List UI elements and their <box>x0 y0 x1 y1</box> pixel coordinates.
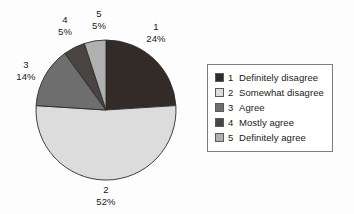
pie-slice-2 <box>36 106 176 180</box>
legend-swatch-icon-2 <box>215 88 224 97</box>
slice-label-3-value: 14% <box>8 71 44 83</box>
slice-label-1-value: 24% <box>136 33 176 45</box>
slice-label-2-value: 52% <box>86 196 126 208</box>
legend-key-1: 1 <box>228 72 239 83</box>
legend-label-1: Definitely disagree <box>239 72 318 83</box>
slice-label-1: 1 24% <box>136 21 176 44</box>
legend-swatch-icon-4 <box>215 118 224 127</box>
pie-chart-figure: 1 24% 2 52% 3 14% 4 5% 5 5% 1 Definitely… <box>0 0 354 214</box>
slice-label-5: 5 5% <box>84 8 114 31</box>
slice-label-3: 3 14% <box>8 59 44 82</box>
slice-label-5-key: 5 <box>84 8 114 20</box>
pie-slice-1 <box>106 40 176 110</box>
legend-item-5: 5 Definitely agree <box>215 130 326 145</box>
slice-label-2: 2 52% <box>86 184 126 207</box>
legend-item-2: 2 Somewhat disagree <box>215 85 326 100</box>
legend-key-2: 2 <box>228 87 239 98</box>
legend-key-3: 3 <box>228 102 239 113</box>
legend-swatch-icon-1 <box>215 73 224 82</box>
legend-key-4: 4 <box>228 117 239 128</box>
legend-label-2: Somewhat disagree <box>239 87 324 98</box>
slice-label-2-key: 2 <box>86 184 126 196</box>
slice-label-3-key: 3 <box>8 59 44 71</box>
slice-label-5-value: 5% <box>84 20 114 32</box>
pie-plot-area: 1 24% 2 52% 3 14% 4 5% 5 5% <box>0 0 200 214</box>
slice-label-4-key: 4 <box>50 14 80 26</box>
legend-item-4: 4 Mostly agree <box>215 115 326 130</box>
legend-item-1: 1 Definitely disagree <box>215 70 326 85</box>
legend-label-5: Definitely agree <box>239 132 306 143</box>
legend-swatch-icon-3 <box>215 103 224 112</box>
slice-label-4-value: 5% <box>50 26 80 38</box>
legend-label-4: Mostly agree <box>239 117 294 128</box>
legend-item-3: 3 Agree <box>215 100 326 115</box>
slice-label-4: 4 5% <box>50 14 80 37</box>
slice-label-1-key: 1 <box>136 21 176 33</box>
chart-legend: 1 Definitely disagree 2 Somewhat disagre… <box>207 64 333 152</box>
legend-label-3: Agree <box>239 102 265 113</box>
legend-swatch-icon-5 <box>215 133 224 142</box>
legend-key-5: 5 <box>228 132 239 143</box>
